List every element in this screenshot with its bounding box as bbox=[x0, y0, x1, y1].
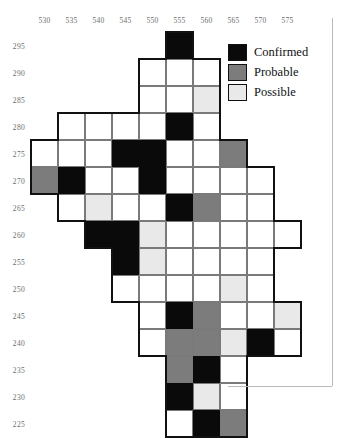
y-tick-290: 290 bbox=[3, 69, 25, 78]
grid-cell bbox=[193, 140, 220, 167]
grid-outline-left bbox=[138, 58, 140, 87]
legend-swatch-confirmed bbox=[228, 44, 247, 61]
x-tick-535: 535 bbox=[58, 16, 85, 25]
grid-outline-bottom bbox=[30, 193, 59, 195]
grid-outline-right bbox=[246, 139, 248, 168]
grid-cell bbox=[247, 221, 274, 248]
grid-outline-right bbox=[300, 328, 302, 357]
x-tick-540: 540 bbox=[85, 16, 112, 25]
grid-cell bbox=[139, 302, 166, 329]
x-tick-565: 565 bbox=[220, 16, 247, 25]
grid-outline-top bbox=[273, 301, 302, 303]
grid-outline-left bbox=[111, 274, 113, 303]
grid-cell bbox=[166, 248, 193, 275]
grid-cell bbox=[193, 383, 220, 410]
grid-outline-top bbox=[273, 220, 302, 222]
grid-cell bbox=[247, 167, 274, 194]
grid-cell bbox=[166, 194, 193, 221]
grid-outline-top bbox=[30, 139, 59, 141]
grid-outline-right bbox=[273, 193, 275, 222]
grid-outline-bottom bbox=[57, 220, 86, 222]
grid-cell bbox=[112, 275, 139, 302]
grid-outline-left bbox=[138, 328, 140, 357]
grid-cell bbox=[166, 356, 193, 383]
grid-cell bbox=[85, 113, 112, 140]
grid-outline-bottom bbox=[111, 301, 140, 303]
legend: Confirmed Probable Possible bbox=[228, 44, 308, 101]
grid-outline-left bbox=[30, 166, 32, 195]
grid-cell bbox=[193, 113, 220, 140]
y-tick-225: 225 bbox=[3, 420, 25, 429]
grid-cell bbox=[247, 302, 274, 329]
y-tick-275: 275 bbox=[3, 150, 25, 159]
legend-item-confirmed: Confirmed bbox=[228, 44, 308, 61]
grid-cell bbox=[193, 410, 220, 437]
grid-cell bbox=[274, 302, 301, 329]
grid-outline-top bbox=[219, 139, 248, 141]
grid-cell bbox=[193, 59, 220, 86]
legend-label-probable: Probable bbox=[254, 66, 298, 79]
grid-cell bbox=[139, 329, 166, 356]
grid-cell bbox=[85, 167, 112, 194]
grid-cell bbox=[139, 140, 166, 167]
grid-outline-left bbox=[165, 409, 167, 438]
grid-outline-bottom bbox=[138, 355, 167, 357]
grid-outline-left bbox=[84, 220, 86, 249]
grid-cell bbox=[139, 275, 166, 302]
x-tick-545: 545 bbox=[112, 16, 139, 25]
grid-cell bbox=[31, 167, 58, 194]
grid-cell bbox=[139, 248, 166, 275]
grid-cell bbox=[220, 221, 247, 248]
x-tick-570: 570 bbox=[247, 16, 274, 25]
grid-outline-left bbox=[165, 382, 167, 411]
grid-cell bbox=[139, 167, 166, 194]
y-tick-230: 230 bbox=[3, 393, 25, 402]
grid-cell bbox=[58, 167, 85, 194]
grid-cell bbox=[85, 221, 112, 248]
grid-cell bbox=[166, 275, 193, 302]
grid-outline-right bbox=[192, 31, 194, 60]
grid-cell bbox=[58, 113, 85, 140]
grid-cell bbox=[112, 248, 139, 275]
grid-cell bbox=[220, 167, 247, 194]
grid-cell bbox=[166, 59, 193, 86]
grid-outline-left bbox=[138, 85, 140, 114]
grid-outline-top bbox=[192, 58, 221, 60]
page-right-rule bbox=[332, 18, 333, 386]
grid-cell bbox=[220, 194, 247, 221]
page-bottom-rule bbox=[228, 386, 332, 387]
legend-swatch-possible bbox=[228, 84, 247, 101]
grid-cell bbox=[274, 329, 301, 356]
grid-cell bbox=[166, 410, 193, 437]
grid-cell bbox=[85, 194, 112, 221]
y-tick-265: 265 bbox=[3, 204, 25, 213]
grid-outline-left bbox=[165, 355, 167, 384]
grid-cell bbox=[139, 113, 166, 140]
x-tick-575: 575 bbox=[274, 16, 301, 25]
grid-cell bbox=[85, 140, 112, 167]
grid-cell bbox=[220, 275, 247, 302]
grid-outline-right bbox=[273, 247, 275, 276]
grid-outline-right bbox=[246, 355, 248, 384]
grid-cell bbox=[166, 32, 193, 59]
grid-outline-left bbox=[30, 139, 32, 168]
grid-outline-top bbox=[138, 58, 167, 60]
legend-swatch-probable bbox=[228, 64, 247, 81]
grid-outline-right bbox=[273, 274, 275, 303]
grid-cell bbox=[166, 167, 193, 194]
grid-cell bbox=[220, 140, 247, 167]
grid-cell bbox=[139, 221, 166, 248]
legend-label-confirmed: Confirmed bbox=[254, 46, 308, 59]
grid-cell bbox=[112, 167, 139, 194]
grid-outline-bottom bbox=[273, 247, 302, 249]
grid-cell bbox=[193, 167, 220, 194]
grid-cell bbox=[247, 329, 274, 356]
grid-cell bbox=[139, 59, 166, 86]
y-tick-280: 280 bbox=[3, 123, 25, 132]
grid-outline-left bbox=[138, 301, 140, 330]
grid-cell bbox=[220, 248, 247, 275]
grid-cell bbox=[274, 221, 301, 248]
grid-cell bbox=[193, 302, 220, 329]
y-tick-250: 250 bbox=[3, 285, 25, 294]
x-tick-550: 550 bbox=[139, 16, 166, 25]
